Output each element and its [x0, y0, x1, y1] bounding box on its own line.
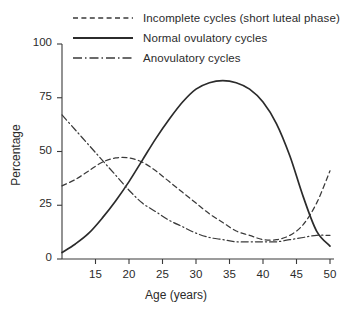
x-axis-title: Age (years)	[0, 288, 352, 302]
legend-label-incomplete-cycles: Incomplete cycles (short luteal phase)	[143, 12, 340, 24]
y-tick-label-75: 75	[10, 90, 52, 102]
y-tick-marks	[57, 44, 62, 259]
series-line-2	[62, 115, 330, 242]
y-tick-label-0: 0	[10, 251, 52, 263]
series-line-0	[62, 157, 330, 240]
y-tick-label-50: 50	[10, 144, 52, 156]
chart-figure: Percentage Age (years) Incomplete cycles…	[0, 0, 352, 319]
legend-label-anovulatory-cycles: Anovulatory cycles	[143, 52, 241, 64]
legend-label-normal-ovulatory-cycles: Normal ovulatory cycles	[143, 32, 267, 44]
axis-lines	[62, 44, 334, 259]
series-layer	[62, 81, 330, 253]
x-tick-marks	[96, 259, 331, 264]
series-line-1	[62, 81, 330, 253]
y-tick-label-25: 25	[10, 197, 52, 209]
y-tick-label-100: 100	[10, 36, 52, 48]
x-tick-label-50: 50	[310, 268, 350, 280]
legend-line-samples	[73, 18, 133, 58]
